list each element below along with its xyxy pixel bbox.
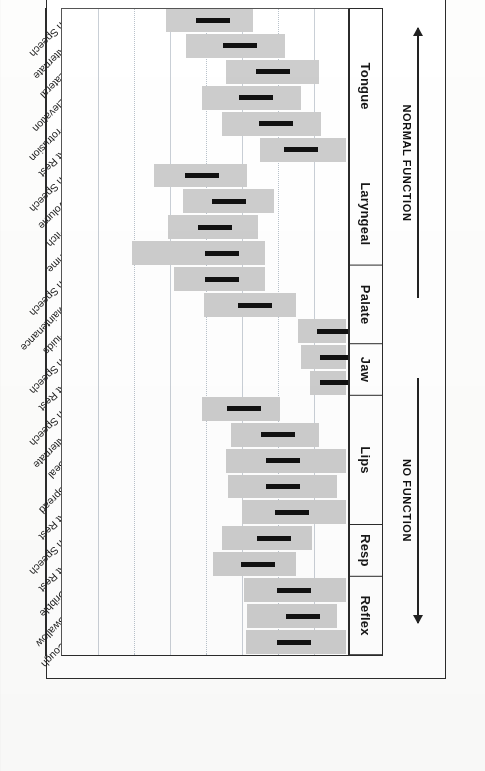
scanned-page: CoughSwallowDribbleAt RestIn SpeechAt Re… [0, 0, 485, 771]
figure-chart: CoughSwallowDribbleAt RestIn SpeechAt Re… [46, 0, 446, 679]
plot-canvas [61, 8, 349, 656]
group-rule [45, 345, 46, 397]
chart-column [62, 163, 348, 189]
mean-marker [196, 18, 230, 23]
group-rule [45, 397, 46, 527]
mean-marker [266, 458, 300, 463]
group-label-tongue: Tongue [350, 9, 382, 163]
chart-column [62, 85, 348, 111]
chart-column [62, 474, 348, 500]
chart-column [62, 292, 348, 318]
normal-function-label: NORMAL FUNCTION [401, 28, 413, 298]
chart-column [62, 240, 348, 266]
chart-column [62, 603, 348, 629]
chart-column [62, 577, 348, 603]
chart-column [62, 422, 348, 448]
mean-marker [320, 355, 349, 360]
mean-marker [241, 562, 275, 567]
group-label-jaw: Jaw [350, 344, 382, 396]
figure-border: CoughSwallowDribbleAt RestIn SpeechAt Re… [46, 0, 446, 679]
group-label-laryngeal: Laryngeal [350, 163, 382, 266]
mean-marker [227, 406, 261, 411]
mean-marker [198, 225, 232, 230]
group-label-resp: Resp [350, 525, 382, 577]
mean-marker [239, 95, 273, 100]
mean-marker [275, 510, 309, 515]
mean-marker [286, 614, 320, 619]
arrow-right-icon [417, 378, 419, 623]
mean-marker [257, 536, 291, 541]
chart-column [62, 8, 348, 33]
mean-marker [223, 43, 257, 48]
chart-column [62, 525, 348, 551]
mean-marker [277, 588, 311, 593]
mean-marker [205, 277, 239, 282]
chart-column [62, 188, 348, 214]
normal-function-indicator: NORMAL FUNCTION [391, 28, 431, 298]
chart-column [62, 59, 348, 85]
mean-marker [317, 329, 349, 334]
chart-column [62, 551, 348, 577]
group-rule [45, 267, 46, 345]
mean-marker [284, 147, 318, 152]
standard-deviation-box [132, 241, 265, 265]
mean-marker [277, 640, 311, 645]
mean-marker [256, 69, 290, 74]
group-label-lips: Lips [350, 396, 382, 525]
mean-marker [320, 380, 349, 385]
axis-direction-legend: NORMAL FUNCTION NO FUNCTION [391, 8, 431, 656]
group-label-bar: ReflexRespLipsJawPalateLaryngealTongue [349, 8, 383, 656]
mean-marker [238, 303, 272, 308]
plot-area [61, 8, 349, 656]
mean-marker [205, 251, 239, 256]
chart-column [62, 344, 348, 370]
group-rule [45, 8, 46, 164]
chart-column [62, 370, 348, 396]
mean-marker [261, 432, 295, 437]
chart-column [62, 111, 348, 137]
item-label-axis: CoughSwallowDribbleAt RestIn SpeechAt Re… [45, 8, 61, 656]
figure-caption: Figure 2-1. Mean scores and standard dev… [468, 765, 483, 771]
mean-marker [259, 121, 293, 126]
mean-marker [266, 484, 300, 489]
chart-column [62, 214, 348, 240]
chart-column [62, 318, 348, 344]
no-function-indicator: NO FUNCTION [391, 378, 431, 623]
chart-column [62, 448, 348, 474]
chart-column [62, 137, 348, 163]
group-label-palate: Palate [350, 266, 382, 344]
group-label-reflex: Reflex [350, 577, 382, 655]
chart-column [62, 629, 348, 655]
no-function-label: NO FUNCTION [401, 378, 413, 623]
mean-marker [212, 199, 246, 204]
chart-column [62, 500, 348, 526]
group-rule [45, 578, 46, 656]
mean-marker [185, 173, 219, 178]
group-rule [45, 526, 46, 578]
chart-column [62, 266, 348, 292]
arrow-left-icon [417, 28, 419, 298]
group-rule [45, 164, 46, 268]
chart-column [62, 396, 348, 422]
chart-column [62, 33, 348, 59]
